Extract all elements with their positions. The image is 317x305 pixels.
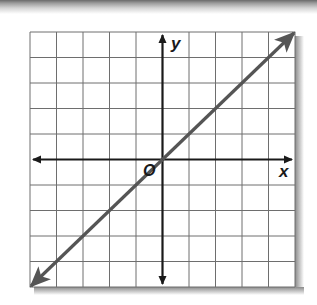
origin-label: O	[143, 162, 156, 179]
x-axis-label: x	[278, 162, 290, 181]
coordinate-plane: y x O	[0, 0, 317, 305]
y-axis-label: y	[170, 34, 182, 53]
